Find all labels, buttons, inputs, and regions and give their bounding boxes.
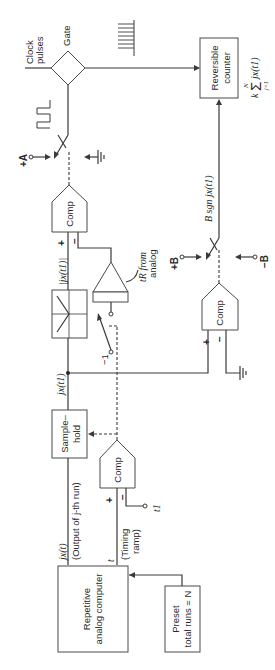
total-runs-label: total runs = N: [182, 590, 193, 647]
counter-label: counter: [221, 52, 232, 84]
arrowhead-icon: [129, 572, 135, 578]
t1-connection: [126, 488, 143, 506]
plus-sign: +: [104, 497, 115, 503]
preset-label: Preset: [170, 605, 181, 633]
block-diagram: Repetitive analog computer Preset total …: [0, 0, 275, 670]
pulses-label: pulses: [34, 36, 45, 64]
plus-a-label: +A: [18, 154, 29, 167]
hold-label: hold: [71, 425, 82, 443]
sum-top: N: [242, 83, 250, 89]
sum-k: k: [249, 93, 260, 98]
arrowhead-icon: [97, 313, 102, 321]
minus-sign: −: [214, 336, 225, 342]
pulse-train-icon: [118, 20, 134, 56]
amplifier-base: [93, 292, 128, 302]
ramp-label: ramp): [130, 529, 141, 554]
gate-diamond: [51, 51, 85, 85]
plus-b-label: +B: [169, 257, 180, 270]
t1-terminal: [143, 504, 147, 508]
t1-label: t1: [151, 504, 162, 512]
arrowhead-icon: [88, 431, 94, 437]
minus-sign: −: [69, 238, 80, 244]
amp-input-terminal: [109, 312, 113, 316]
preset-connection: [129, 575, 182, 586]
b-sgn-label: B sgn jx(t1): [203, 175, 215, 222]
sample-label: Sample–: [59, 415, 70, 453]
minus-b-label: −B: [259, 255, 270, 268]
minus-one-label: −1: [99, 354, 110, 365]
sign-comp-input: [68, 330, 208, 373]
amplifier-triangle: [93, 262, 128, 292]
comp-label: Comp: [64, 201, 75, 226]
output-of-jth-run-label: (Output of j-th run): [70, 482, 81, 560]
arrowhead-icon: [196, 254, 202, 260]
sum-bottom: j=1: [263, 81, 269, 91]
amp-output: [78, 232, 111, 262]
arrowhead-icon: [194, 65, 200, 71]
jx-t1-label: jx(t1): [55, 373, 67, 397]
minus-b-terminal: [253, 255, 257, 259]
switch-arm: [99, 316, 111, 350]
timing-label: (Timing: [119, 529, 130, 560]
comp-label: Comp: [214, 300, 225, 325]
minus-one-terminal: [109, 350, 113, 354]
repetitive-label: Repetitive: [81, 588, 92, 630]
plus-a-terminal: [29, 155, 33, 159]
reversible-label: Reversible: [209, 46, 220, 91]
plus-b-terminal: [180, 255, 184, 259]
arrowhead-icon: [84, 154, 90, 160]
plus-sign: +: [201, 339, 212, 345]
analog-label: analog: [147, 249, 158, 278]
plus-sign: +: [56, 240, 67, 246]
arrowhead-icon: [216, 99, 222, 105]
sum-formula: k Σ N j=1 jx(t1): [242, 57, 269, 98]
analog-computer-label: analog computer: [93, 574, 104, 645]
comp-label: Comp: [112, 457, 123, 482]
abs-jx-t1-label: |jx(t1)|: [57, 258, 69, 285]
square-wave-icon: [37, 100, 50, 128]
sum-term: jx(t1): [249, 57, 261, 81]
gate-label: Gate: [61, 25, 72, 46]
t-label: t: [105, 559, 116, 562]
arrowhead-icon: [235, 254, 241, 260]
arrowhead-icon: [45, 154, 51, 160]
ground-connection: [226, 330, 240, 373]
jx-t-label: jx(t): [57, 543, 69, 562]
